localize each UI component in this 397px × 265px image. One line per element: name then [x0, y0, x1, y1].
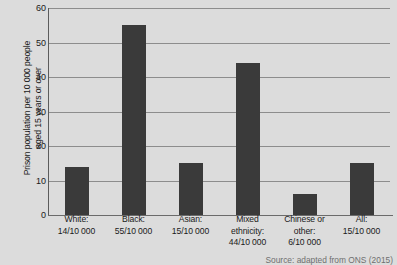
source-note: Source: adapted from ONS (2015): [265, 255, 393, 265]
plot-area: [48, 4, 390, 212]
gridline-40: [48, 77, 390, 78]
clipped-top-caption: [100, 0, 390, 3]
y-axis-line: [48, 8, 49, 216]
bar-3: [236, 63, 260, 215]
y-tick-label-30: 30: [26, 107, 46, 116]
gridline-10: [48, 181, 390, 182]
bar-4: [293, 194, 317, 215]
y-tick-label-40: 40: [26, 73, 46, 82]
y-tick-label-50: 50: [26, 38, 46, 47]
gridline-20: [48, 146, 390, 147]
bar-2: [179, 163, 203, 215]
x-axis-category-labels: White:14/10 000Black:55/10 000Asian:15/1…: [48, 214, 390, 260]
gridline-60: [48, 8, 390, 9]
y-tick-label-20: 20: [26, 142, 46, 151]
y-tick-label-60: 60: [26, 4, 46, 13]
x-category-label-5-line-0: All:: [328, 214, 395, 226]
bar-1: [122, 25, 146, 215]
gridline-50: [48, 43, 390, 44]
x-category-label-5-line-1: 15/10 000: [328, 226, 395, 238]
x-category-label-4-line-2: 6/10 000: [271, 237, 338, 249]
y-tick-label-10: 10: [26, 176, 46, 185]
bar-0: [65, 167, 89, 215]
gridline-30: [48, 112, 390, 113]
x-category-label-5: All:15/10 000: [328, 214, 395, 237]
bar-5: [350, 163, 374, 215]
